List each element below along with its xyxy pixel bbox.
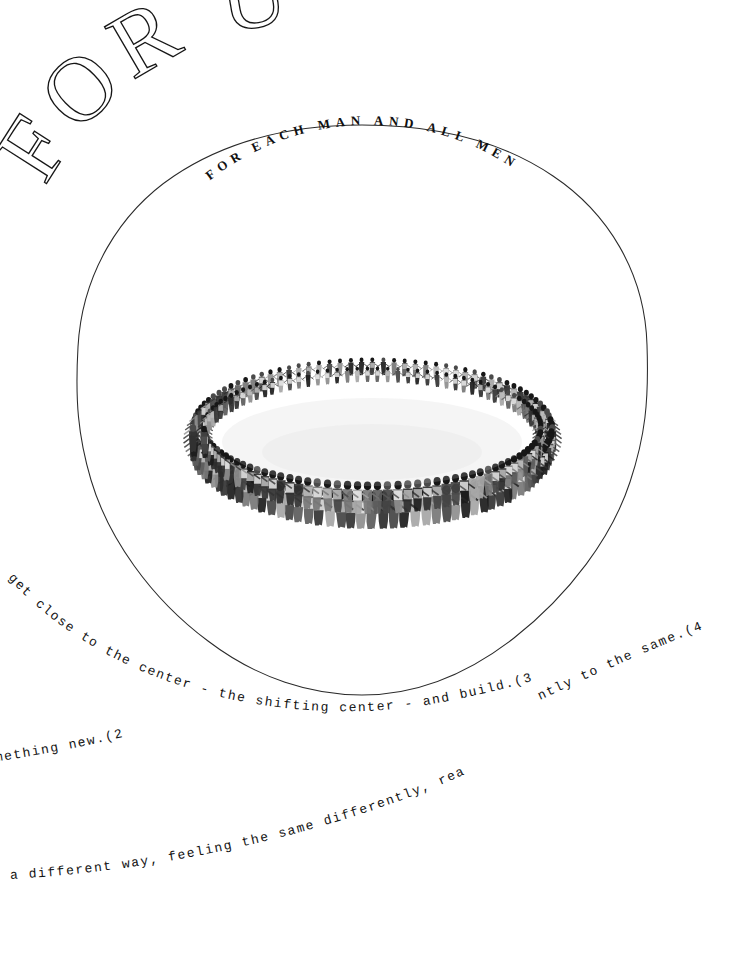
curved-line-1: get close to the center - the shifting c… xyxy=(5,571,534,716)
arced-text-layer: FOR US FOR EACH MAN AND ALL MEN get clos… xyxy=(0,0,755,973)
curved-line-3: ntly to the same.(4 xyxy=(535,618,705,703)
poster-page: FOR US FOR EACH MAN AND ALL MEN get clos… xyxy=(0,0,755,973)
subtitle-for-each-man-and-all-men: FOR EACH MAN AND ALL MEN xyxy=(202,113,522,183)
title-for-us: FOR US xyxy=(0,0,304,197)
curved-line-2: omething new.(2 xyxy=(0,726,125,767)
